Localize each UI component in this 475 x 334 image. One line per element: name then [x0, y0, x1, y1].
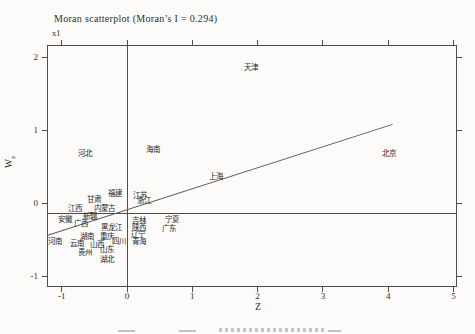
data-point-label: 福建 — [108, 190, 122, 198]
data-point-label: 河北 — [78, 150, 92, 158]
y-axis-tick — [42, 276, 47, 277]
y-axis-label-subscript: z — [9, 156, 17, 159]
cropped-caption-text-fragment — [219, 328, 325, 332]
x-axis-tick-label: 2 — [248, 291, 268, 301]
data-point-label: 广西 — [74, 220, 88, 228]
x-axis-tick-label: 1 — [182, 291, 202, 301]
x-axis-label: Z — [248, 301, 268, 312]
data-point-label: 北京 — [382, 150, 396, 158]
x-axis-tick-label: 0 — [117, 291, 137, 301]
cropped-caption-dash — [328, 330, 341, 332]
x-axis-tick-top — [453, 40, 454, 45]
y-axis-tick-right — [457, 130, 462, 131]
y-axis-tick-right — [457, 276, 462, 277]
x-axis-tick-label: -1 — [52, 291, 72, 301]
x-axis-tick-top — [322, 40, 323, 45]
data-point-label: 贵州 — [78, 249, 92, 257]
data-point-label: 黑龙江 — [101, 224, 122, 232]
y-axis-tick — [42, 57, 47, 58]
y-axis-label-main: W — [4, 159, 14, 168]
data-point-label: 内蒙古 — [94, 205, 115, 213]
data-point-label: 浙江 — [137, 197, 151, 205]
data-point-label: 海南 — [146, 146, 160, 154]
y-axis-tick-right — [457, 57, 462, 58]
x-axis-tick-top — [388, 40, 389, 45]
chart-title: Moran scatterplot (Moran’s I = 0.294) — [54, 13, 217, 24]
vertical-mean-line — [127, 45, 128, 287]
data-point-label: 天津 — [244, 64, 258, 72]
y-axis-label: Wz — [4, 147, 24, 177]
x-axis-tick-top — [257, 40, 258, 45]
data-point-label: 广东 — [162, 225, 176, 233]
y-axis-tick-label: 1 — [14, 125, 38, 135]
moran-scatterplot-page: Moran scatterplot (Moran’s I = 0.294) x1… — [0, 0, 475, 334]
y-axis-tick-label: 0 — [14, 198, 38, 208]
data-point-label: 四川 — [112, 238, 126, 246]
y-axis-tick-right — [457, 203, 462, 204]
data-point-label: 江西 — [68, 205, 82, 213]
x-axis-tick-label: 4 — [378, 291, 398, 301]
y-axis-tick — [42, 130, 47, 131]
y-axis-tick-label: -1 — [14, 271, 38, 281]
x-axis-tick-top — [192, 40, 193, 45]
cropped-caption-dash — [118, 330, 135, 332]
x-axis-tick-top — [61, 40, 62, 45]
cropped-caption-dash — [179, 330, 196, 332]
data-point-label: 上海 — [209, 173, 223, 181]
data-point-label: 山东 — [100, 246, 114, 254]
x-axis-tick-label: 3 — [313, 291, 333, 301]
axis-scale-multiplier: x1 — [52, 28, 61, 38]
x-axis-tick-label: 5 — [444, 291, 464, 301]
data-point-label: 安徽 — [58, 216, 72, 224]
data-point-label: 宁夏 — [165, 216, 179, 224]
data-point-label: 湖北 — [100, 256, 114, 264]
data-point-label: 河南 — [48, 238, 62, 246]
y-axis-tick — [42, 203, 47, 204]
y-axis-tick-label: 2 — [14, 52, 38, 62]
data-point-label: 青海 — [132, 238, 146, 246]
